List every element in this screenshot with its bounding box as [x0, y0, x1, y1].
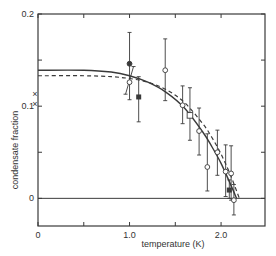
open-square-marker: [187, 113, 193, 119]
data-points: [124, 32, 237, 215]
x-tick-label: 2.0: [215, 230, 228, 240]
open-circle-marker: [205, 165, 210, 170]
x-marker: ×: [32, 99, 37, 109]
open-circle-marker: [229, 171, 234, 176]
data-point: [127, 32, 132, 99]
data-point: [136, 77, 141, 122]
axis-x-markers: ××: [32, 89, 37, 109]
tick-labels: 01.02.000.10.2: [21, 9, 227, 240]
condensate-fraction-chart: 01.02.000.10.2 ×× temperature (K) conden…: [0, 0, 276, 256]
open-circle-marker: [231, 198, 236, 203]
open-circle-marker: [180, 103, 185, 108]
open-circle-marker: [223, 169, 228, 174]
y-tick-label: 0: [29, 193, 34, 203]
open-circle-marker: [163, 68, 168, 73]
filled-circle-marker: [127, 61, 132, 66]
y-axis-label: condensate fraction: [10, 111, 20, 190]
open-circle-marker: [197, 129, 202, 134]
x-tick-label: 1.0: [123, 230, 136, 240]
open-circle-marker: [215, 150, 220, 155]
data-point: [215, 130, 220, 175]
x-axis-label: temperature (K): [141, 239, 204, 249]
x-tick-label: 0: [35, 230, 40, 240]
data-point: [187, 88, 193, 141]
data-point: [197, 108, 202, 155]
filled-square-marker: [136, 94, 141, 99]
data-point: [180, 86, 185, 124]
x-marker: ×: [32, 89, 37, 99]
y-tick-label: 0.2: [21, 9, 34, 19]
open-circle-marker: [127, 80, 132, 85]
